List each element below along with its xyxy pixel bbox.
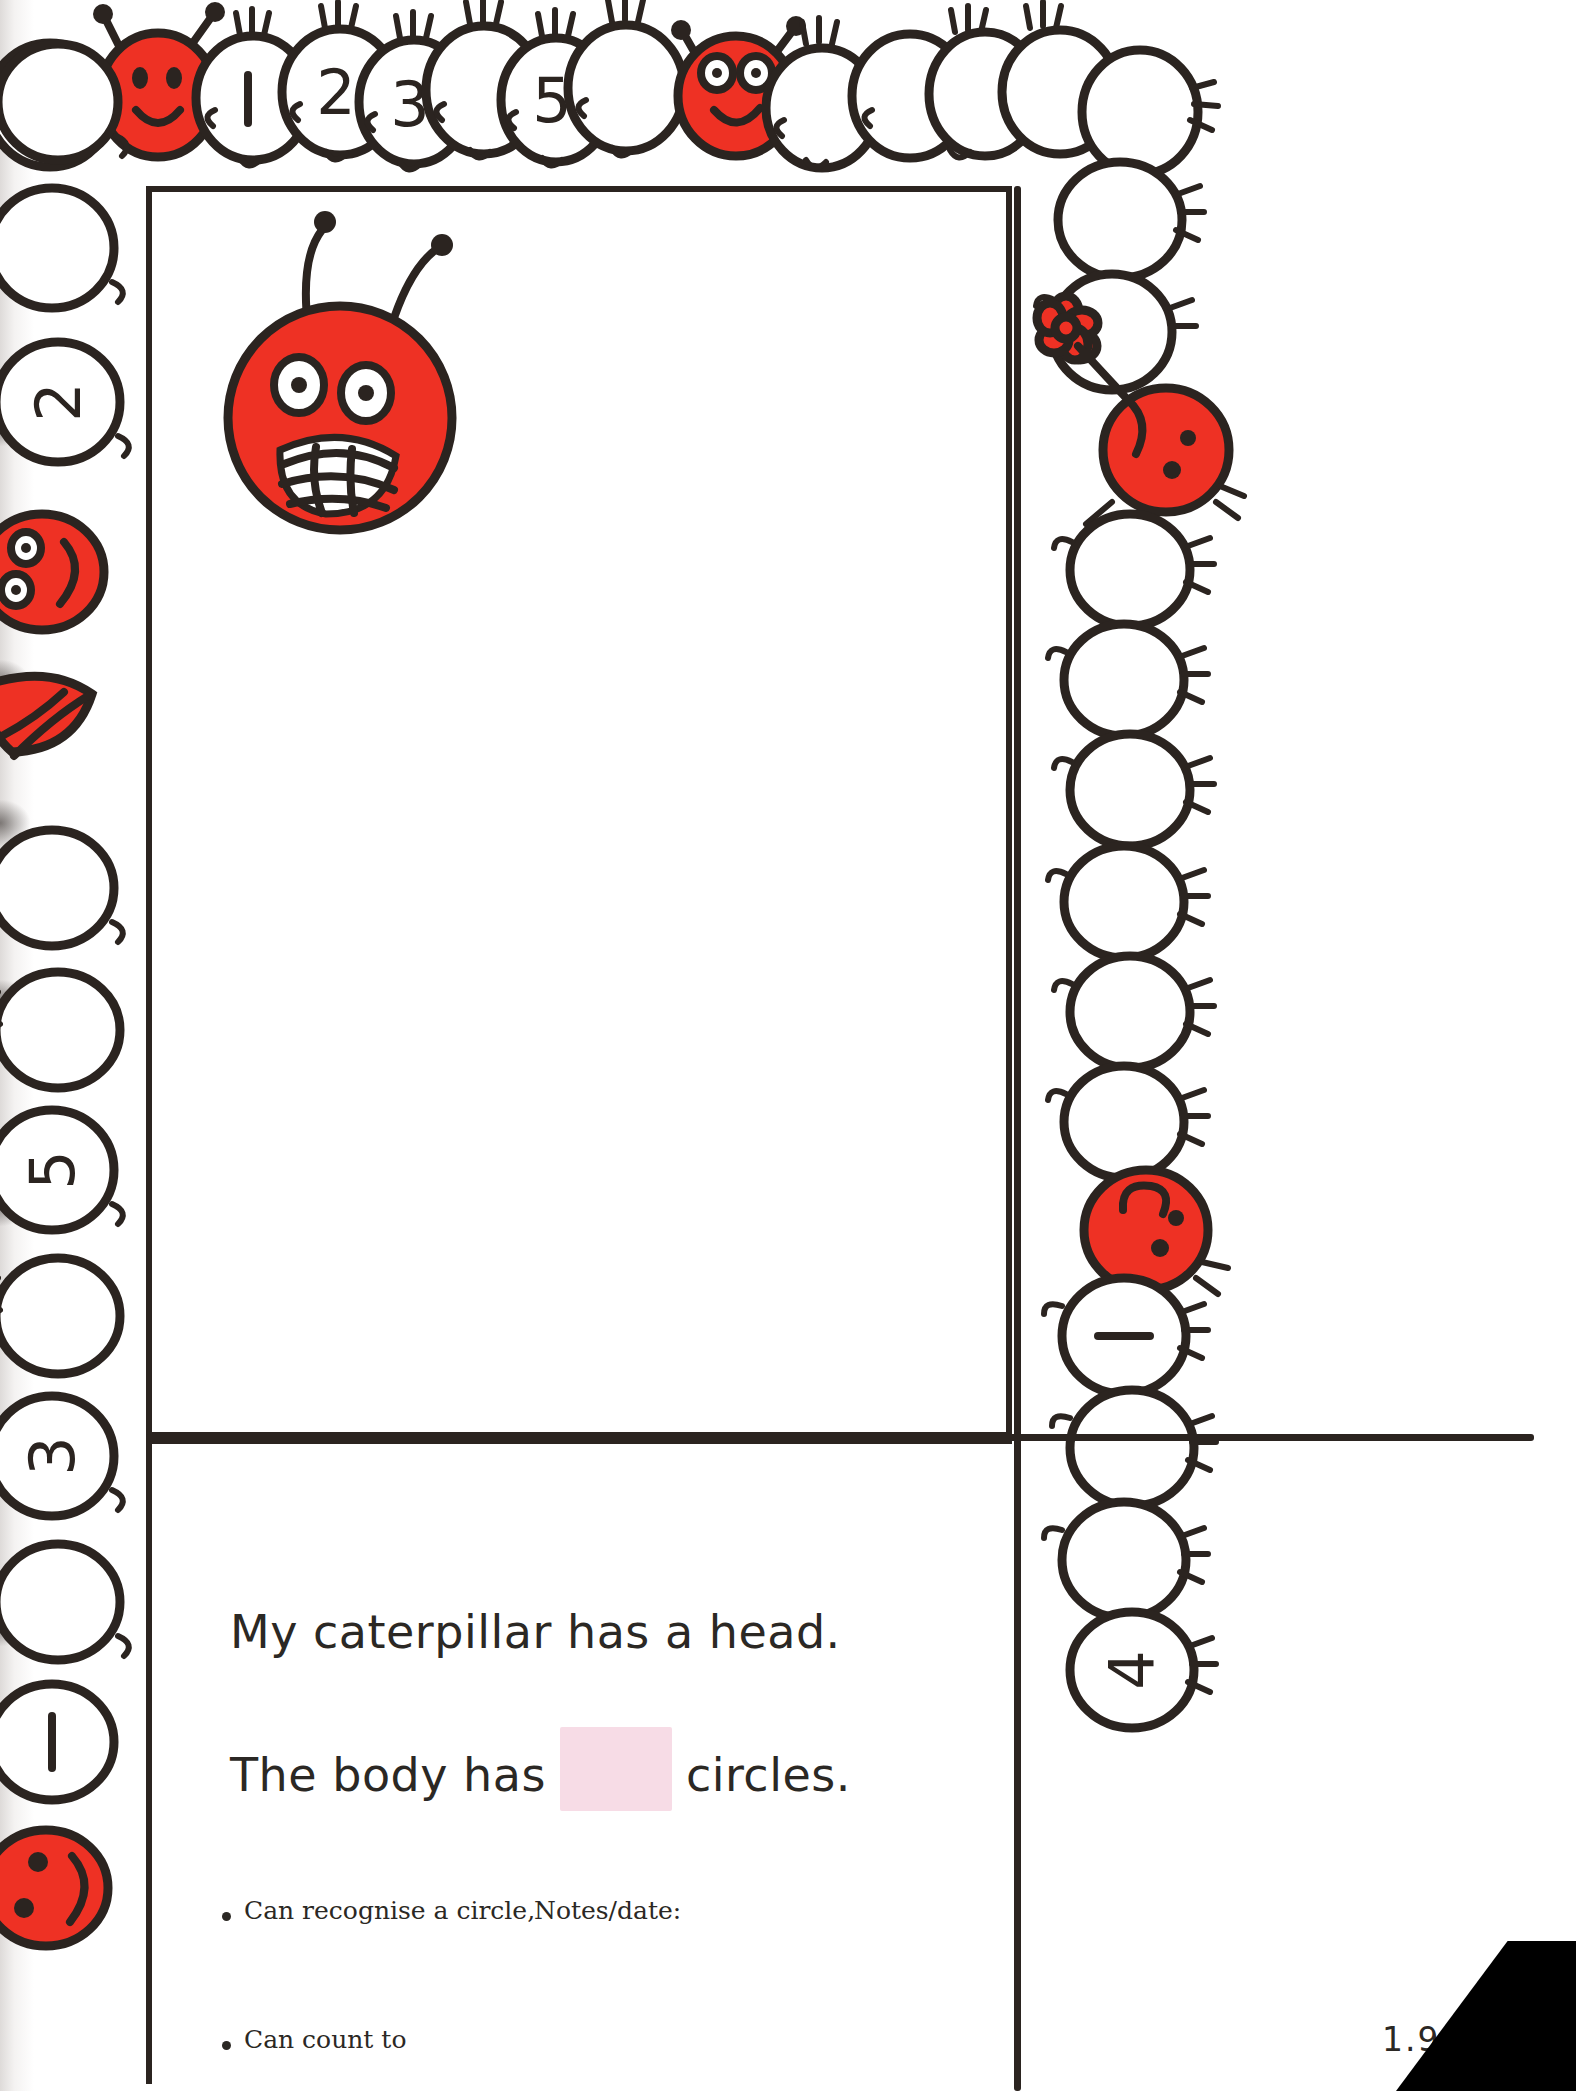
caterpillar-segment-blank	[0, 830, 123, 946]
caterpillar-segment-blank	[1054, 514, 1214, 626]
caterpillar-segment-blank	[0, 972, 120, 1088]
caterpillar-segment-blank	[1044, 1502, 1208, 1618]
toothy-mouth	[280, 437, 396, 514]
svg-text:5: 5	[16, 1150, 89, 1189]
sentence-1-text: My caterpillar has a head.	[230, 1605, 841, 1659]
caterpillar-segment-blank	[0, 1258, 120, 1374]
caterpillar-segment-blank	[1058, 162, 1204, 278]
right-caterpillar: 4	[1020, 150, 1576, 1950]
caterpillar-segment-blank	[568, 0, 684, 156]
caterpillar-segment-blank	[1054, 734, 1214, 846]
caterpillar-segment-blank	[1048, 624, 1208, 736]
footer-objective-1: Can recognise a circle,	[244, 1896, 535, 1925]
caterpillar-segment-blank	[1054, 956, 1214, 1068]
caterpillar-segment-3: 3	[0, 1396, 123, 1516]
caterpillar-segment-blank	[1052, 1390, 1216, 1506]
footer-objective-2: Can count to	[244, 2025, 406, 2054]
caterpillar-segment-1	[1044, 1278, 1208, 1394]
sentence-2-before-text: The body has	[230, 1748, 546, 1802]
caterpillar-head-smiley-bottom	[0, 1830, 108, 1946]
notes-date-label: Notes/date:	[534, 1896, 681, 1925]
caterpillar-segment-4: 4	[1070, 1612, 1216, 1728]
caterpillar-segment-5: 5	[0, 1110, 123, 1230]
corner-wedge-decoration	[1396, 1941, 1576, 2091]
answer-blank-box[interactable]	[560, 1727, 672, 1811]
sentence-2-after-text: circles.	[686, 1748, 851, 1802]
caterpillar-segment-2: 2	[0, 342, 129, 462]
worksheet-page: 2 3 5	[0, 0, 1576, 2091]
caterpillar-head-rotated-face	[0, 514, 104, 630]
worksheet-sentence-2: The body hascircles.	[230, 1727, 851, 1811]
caterpillar-segment-blank	[1048, 1066, 1208, 1178]
bullet-dot-icon	[222, 1912, 231, 1921]
svg-text:4: 4	[1096, 1650, 1169, 1689]
caterpillar-segment-blank	[0, 1544, 129, 1660]
worksheet-sentence-1: My caterpillar has a head.	[230, 1605, 841, 1659]
red-mouth-shape	[0, 676, 92, 756]
right-vertical-rule	[1014, 186, 1021, 2091]
caterpillar-head-curl	[1084, 1170, 1228, 1294]
caterpillar-segment-blank	[0, 44, 127, 160]
svg-text:3: 3	[16, 1436, 89, 1475]
caterpillar-segment-blank	[0, 188, 123, 308]
caterpillar-segment-1	[0, 1684, 114, 1800]
bullet-dot-icon	[222, 2041, 231, 2050]
svg-text:2: 2	[316, 56, 355, 129]
big-red-caterpillar-head	[180, 200, 600, 530]
caterpillar-segment-blank	[1048, 846, 1208, 958]
svg-text:2: 2	[22, 382, 95, 421]
